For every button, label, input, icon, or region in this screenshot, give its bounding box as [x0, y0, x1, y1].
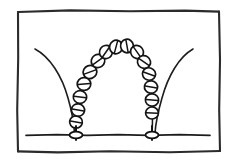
- left-foot-oval: [70, 132, 83, 139]
- bead: [145, 107, 158, 119]
- bead-chord: [78, 83, 90, 84]
- frame-right-edge: [219, 12, 220, 151]
- bead: [145, 93, 159, 107]
- figure-canvas: Hand-drawn arch of beads diagram: [0, 0, 235, 161]
- frame-left-edge: [17, 12, 18, 151]
- ground-line: [26, 135, 210, 136]
- page-background: [0, 0, 235, 161]
- hand-drawn-arch-figure: [0, 0, 235, 161]
- bead: [73, 90, 88, 104]
- bead-chord: [146, 99, 158, 100]
- right-foot-oval: [146, 132, 159, 139]
- frame-top-edge: [18, 10, 219, 12]
- frame-bottom-edge: [18, 151, 220, 152]
